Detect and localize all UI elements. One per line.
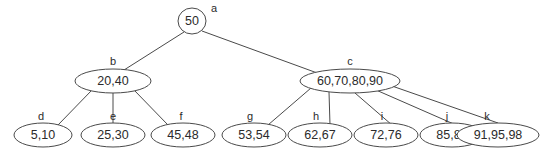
- node-label-e: e: [110, 110, 116, 122]
- node-value-k: 91,95,98: [474, 128, 523, 142]
- tree-node-g[interactable]: 53,54g: [222, 110, 286, 147]
- node-label-f: f: [179, 110, 183, 122]
- node-value-c: 60,70,80,90: [317, 74, 383, 88]
- node-label-b: b: [110, 55, 116, 67]
- tree-node-k[interactable]: 91,95,98k: [457, 110, 539, 147]
- tree-edge-c-i: [355, 93, 392, 125]
- tree-edge-c-g: [268, 88, 311, 125]
- node-value-g: 53,54: [238, 128, 269, 142]
- node-value-h: 62,67: [304, 128, 335, 142]
- node-label-k: k: [484, 110, 490, 122]
- node-value-d: 5,10: [31, 128, 55, 142]
- tree-node-h[interactable]: 62,67h: [288, 110, 352, 147]
- btree-diagram: 50a20,40b60,70,80,90c5,10d25,30e45,48f53…: [0, 0, 546, 154]
- tree-node-d[interactable]: 5,10d: [14, 110, 72, 147]
- node-value-i: 72,76: [370, 128, 401, 142]
- tree-edge-a-b: [124, 32, 184, 70]
- node-value-e: 25,30: [97, 128, 128, 142]
- node-value-f: 45,48: [167, 128, 198, 142]
- diagram-canvas: 50a20,40b60,70,80,90c5,10d25,30e45,48f53…: [0, 0, 546, 154]
- node-value-b: 20,40: [97, 74, 128, 88]
- node-label-g: g: [247, 110, 253, 122]
- tree-node-e[interactable]: 25,30e: [81, 110, 145, 147]
- node-value-a: 50: [185, 14, 199, 28]
- node-label-h: h: [313, 110, 319, 122]
- tree-edge-b-d: [58, 90, 92, 125]
- node-label-d: d: [38, 110, 44, 122]
- node-label-a: a: [211, 2, 218, 14]
- node-label-c: c: [347, 55, 353, 67]
- tree-edge-a-c: [202, 31, 320, 74]
- tree-node-c[interactable]: 60,70,80,90c: [300, 55, 400, 93]
- tree-edge-c-j: [376, 90, 456, 125]
- node-label-i: i: [381, 110, 383, 122]
- tree-edge-b-f: [134, 90, 168, 125]
- tree-node-f[interactable]: 45,48f: [151, 110, 215, 147]
- tree-node-i[interactable]: 72,76i: [354, 110, 418, 147]
- tree-node-a[interactable]: 50a: [178, 2, 218, 34]
- node-label-j: j: [445, 110, 448, 122]
- tree-edge-c-h: [329, 92, 330, 125]
